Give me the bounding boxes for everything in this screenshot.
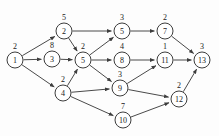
graph-edge-10-to-12 — [131, 103, 169, 117]
node-weight-n10: 7 — [121, 102, 125, 111]
node-label-n9: 9 — [118, 84, 122, 93]
graph-node-n12[interactable]: 122 — [171, 81, 187, 107]
graph-node-n1[interactable]: 12 — [7, 42, 23, 68]
graph-edge-4-to-9 — [71, 89, 109, 92]
node-label-n3: 3 — [50, 55, 54, 64]
graph-node-n5a[interactable]: 52 — [75, 42, 91, 68]
node-weight-n1: 2 — [13, 42, 17, 51]
node-label-n1: 1 — [13, 56, 17, 65]
graph-edge-12-to-13 — [183, 69, 196, 92]
graph-edge-7-to-13 — [172, 36, 194, 53]
node-label-n11: 11 — [161, 56, 169, 65]
graph-node-n3[interactable]: 38 — [44, 41, 60, 67]
graph-node-n11[interactable]: 111 — [157, 42, 173, 68]
node-weight-n2: 5 — [62, 13, 66, 22]
node-layer: 122538425253728493107111122133 — [7, 13, 210, 128]
node-weight-n4: 2 — [61, 75, 65, 84]
node-weight-n9: 3 — [118, 70, 122, 79]
graph-node-n13[interactable]: 133 — [194, 42, 210, 68]
graph-node-n2[interactable]: 25 — [56, 13, 72, 39]
node-label-n7: 7 — [163, 27, 167, 36]
graph-edge-4-to-5 — [67, 69, 77, 86]
node-weight-n8: 4 — [120, 42, 124, 51]
node-weight-n11: 1 — [163, 42, 167, 51]
node-label-n13: 13 — [198, 56, 206, 65]
node-weight-n3: 8 — [50, 41, 54, 50]
node-label-n5b: 5 — [120, 27, 124, 36]
graph-node-n4[interactable]: 42 — [55, 75, 71, 101]
graph-edge-2-to-5 — [69, 38, 78, 51]
graph-node-n7[interactable]: 72 — [157, 13, 173, 39]
graph-edge-5-to-5 — [90, 37, 114, 55]
node-label-n2: 2 — [62, 27, 66, 36]
graph-node-n8[interactable]: 84 — [114, 42, 130, 68]
graph-edge-5-to-9 — [90, 65, 112, 81]
graph-edge-1-to-4 — [22, 65, 54, 87]
graph-edge-9-to-11 — [127, 66, 156, 84]
graph-edge-4-to-10 — [71, 96, 114, 115]
graph-edge-9-to-12 — [128, 90, 168, 97]
node-label-n5a: 5 — [81, 56, 85, 65]
node-weight-n7: 2 — [163, 13, 167, 22]
node-label-n12: 12 — [175, 95, 183, 104]
graph-node-n9[interactable]: 93 — [112, 70, 128, 96]
graph-node-n5b[interactable]: 53 — [114, 13, 130, 39]
node-weight-n12: 2 — [177, 81, 181, 90]
node-weight-n5a: 2 — [81, 42, 85, 51]
edge-layer — [22, 31, 197, 117]
node-weight-n5b: 3 — [120, 13, 124, 22]
graph-node-n10[interactable]: 107 — [115, 102, 131, 128]
node-label-n8: 8 — [120, 56, 124, 65]
node-weight-n13: 3 — [200, 42, 204, 51]
graph-diagram: 122538425253728493107111122133 — [0, 0, 219, 136]
graph-canvas: 122538425253728493107111122133 — [0, 0, 219, 136]
node-label-n4: 4 — [61, 89, 65, 98]
node-label-n10: 10 — [119, 116, 127, 125]
